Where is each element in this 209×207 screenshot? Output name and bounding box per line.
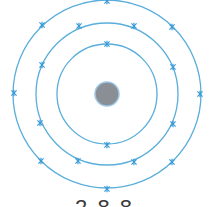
bohr-model-diagram [0, 0, 209, 207]
electron-cross-icon [104, 142, 109, 148]
nucleus [95, 82, 119, 106]
electron-configuration-label: 2.8.8 [0, 197, 209, 207]
electron-cross-icon [131, 159, 136, 165]
electron-cross-icon [38, 158, 43, 164]
electron-cross-icon [169, 159, 174, 165]
electron-cross-icon [104, 186, 109, 192]
electron-cross-icon [11, 90, 16, 96]
electron-cross-icon [197, 91, 202, 97]
electron-cross-icon [76, 23, 81, 29]
electron-cross-icon [39, 62, 44, 68]
electron-cross-icon [75, 158, 80, 164]
electron-cross-icon [170, 64, 175, 70]
electron-cross-icon [131, 23, 136, 29]
